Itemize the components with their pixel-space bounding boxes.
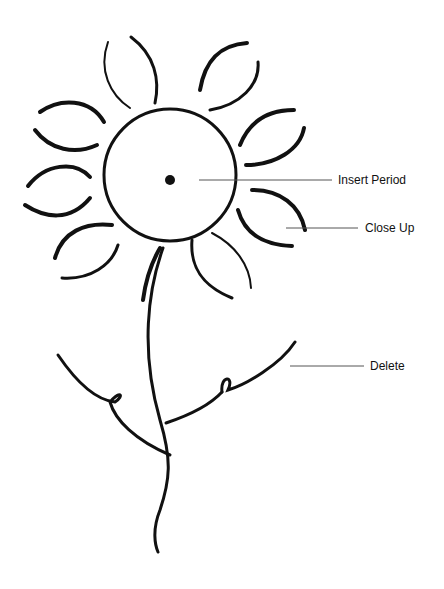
label-insert-period: Insert Period [338,173,406,187]
diagram-canvas: Insert Period Close Up Delete [0,0,444,589]
period-dot [165,175,175,185]
label-delete: Delete [370,359,405,373]
flower-illustration [0,0,444,589]
label-close-up: Close Up [365,221,414,235]
